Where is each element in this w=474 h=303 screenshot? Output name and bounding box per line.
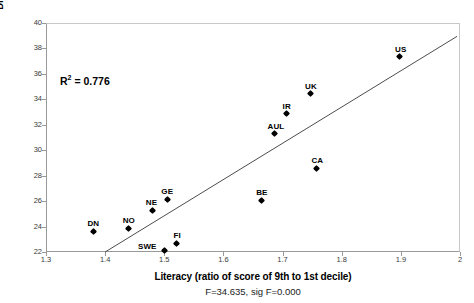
y-axis-tick-label: 38 [0, 44, 42, 52]
data-point-label: NO [123, 217, 135, 225]
x-axis-title: Literacy (ratio of score of 9th to 1st d… [46, 271, 460, 282]
y-axis-tick-label: 36 [0, 70, 42, 78]
data-point-label: AUL [268, 123, 285, 131]
x-axis-tick-label: 1.6 [203, 256, 243, 264]
x-axis-tick-mark [283, 252, 284, 256]
y-axis-tick-label: 26 [0, 197, 42, 205]
y-axis-tick-label: 32 [0, 121, 42, 129]
data-point-label: SWE [138, 243, 157, 251]
y-axis-tick-label: 34 [0, 95, 42, 103]
x-axis-tick-label: 2 [440, 256, 474, 264]
r-squared-annotation: R2 = 0.776 [60, 74, 110, 87]
y-axis-tick-mark [42, 176, 46, 177]
r-squared-value: = 0.776 [72, 75, 110, 87]
x-axis-tick-mark [223, 252, 224, 256]
y-axis-tick-mark [42, 23, 46, 24]
data-point-label: US [395, 46, 406, 54]
y-axis-tick-label: 22 [0, 248, 42, 256]
y-axis-tick-mark [42, 99, 46, 100]
data-point-label: CA [311, 157, 323, 165]
data-point-label: BE [256, 189, 267, 197]
x-axis-tick-label: 1.4 [85, 256, 125, 264]
y-axis-tick-mark [42, 201, 46, 202]
y-axis-tick-mark [42, 227, 46, 228]
data-point-label: FI [173, 232, 180, 240]
x-axis-tick-mark [342, 252, 343, 256]
chart-footnote: F=34.635, sig F=0.000 [46, 286, 460, 297]
data-point-label: GE [161, 188, 173, 196]
y-axis-tick-mark [42, 48, 46, 49]
x-axis-tick-label: 1.9 [381, 256, 421, 264]
y-axis-title-label: Disposable income inequality (Gini) [0, 0, 5, 34]
y-axis-tick-label: 28 [0, 172, 42, 180]
x-axis-tick-mark [401, 252, 402, 256]
x-axis-tick-label: 1.5 [144, 256, 184, 264]
x-axis-tick-label: 1.3 [26, 256, 66, 264]
x-axis-tick-label: 1.8 [322, 256, 362, 264]
data-point-label: NE [146, 199, 157, 207]
data-point-label: UK [305, 83, 317, 91]
y-axis-tick-label: 30 [0, 146, 42, 154]
y-axis-title: Disposable income inequality (Gini) [0, 0, 5, 34]
r-squared-prefix: R [60, 75, 68, 87]
data-point-label: IR [283, 103, 291, 111]
x-axis-tick-mark [460, 252, 461, 256]
y-axis-tick-label: 40 [0, 19, 42, 27]
x-axis-tick-mark [46, 252, 47, 256]
x-axis-tick-label: 1.7 [263, 256, 303, 264]
scatter-chart: Disposable income inequality (Gini) 2224… [0, 0, 474, 303]
y-axis-tick-label: 24 [0, 223, 42, 231]
y-axis-tick-mark [42, 150, 46, 151]
y-axis-tick-mark [42, 125, 46, 126]
x-axis-tick-mark [105, 252, 106, 256]
data-point-label: DN [87, 220, 99, 228]
data-point [161, 247, 168, 254]
y-axis-tick-mark [42, 74, 46, 75]
